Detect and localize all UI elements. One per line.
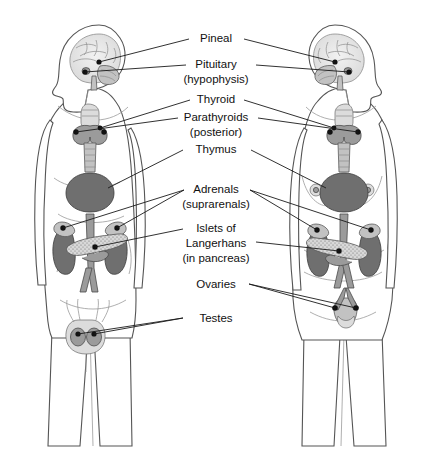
trachea-female [338,143,350,172]
parathyroid-marker-male-2 [101,129,106,134]
thymus-female [320,173,368,212]
label-adrenals-sub: (suprarenals) [182,198,250,210]
label-pituitary: Pituitary [195,58,237,70]
label-pineal: Pineal [200,32,232,44]
trachea-male [84,143,96,172]
label-islets: Islets of [196,222,236,234]
label-group: Pineal Pituitary (hypophysis) Thyroid Pa… [182,32,250,324]
female-legs [302,332,386,446]
male-figure [35,25,146,446]
testis-left [71,328,86,346]
thymus-male [66,173,114,212]
label-pituitary-sub: (hypophysis) [183,73,248,85]
parathyroid-marker-female-2 [327,129,332,134]
label-adrenals: Adrenals [193,183,239,195]
diagram-canvas: Pineal Pituitary (hypophysis) Thyroid Pa… [0,0,434,451]
label-islets-line2: Langerhans [186,237,247,249]
label-ovaries: Ovaries [196,278,236,290]
label-parathyroids-sub: (posterior) [190,126,243,138]
label-thymus: Thymus [196,143,237,155]
label-thyroid: Thyroid [197,93,235,105]
label-islets-sub: (in pancreas) [182,252,249,264]
label-parathyroids: Parathyroids [184,111,249,123]
female-figure [290,25,398,446]
label-testes: Testes [199,312,232,324]
